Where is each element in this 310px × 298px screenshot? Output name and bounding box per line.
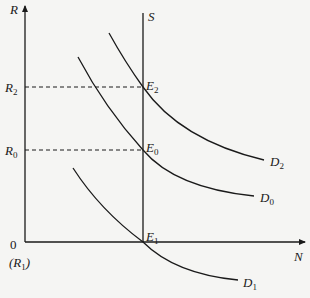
r2-label: R2 — [5, 81, 17, 97]
e1-sub: 1 — [154, 236, 159, 246]
d2-sub: 2 — [279, 161, 284, 171]
e2-text: E — [146, 78, 154, 93]
diagram-canvas: R N 0 (R1) R2 R0 S E2 E0 E1 D2 D0 D1 — [0, 0, 310, 298]
d0-text: D — [260, 190, 269, 205]
d2-label: D2 — [270, 155, 284, 171]
e1-label: E1 — [146, 230, 158, 246]
e1-text: E — [146, 229, 154, 244]
d0-label: D0 — [260, 191, 274, 207]
demand-curve-d0 — [78, 57, 254, 196]
d1-label: D1 — [243, 276, 257, 292]
origin-r1-close: ) — [26, 255, 30, 270]
e2-label: E2 — [146, 79, 158, 95]
d1-sub: 1 — [252, 282, 257, 292]
demand-curve-d1 — [73, 168, 238, 280]
supply-label: S — [148, 10, 155, 23]
r2-sub: 2 — [13, 87, 18, 97]
r0-text: R — [5, 143, 13, 158]
origin-label: 0 — [10, 238, 17, 251]
e0-sub: 0 — [154, 147, 159, 157]
demand-curve-d2 — [109, 33, 264, 160]
e0-text: E — [146, 140, 154, 155]
origin-r1-text: (R — [9, 255, 21, 270]
d1-text: D — [243, 275, 252, 290]
x-axis-label: N — [294, 250, 303, 263]
e2-sub: 2 — [154, 85, 159, 95]
origin-r1-label: (R1) — [9, 256, 30, 272]
y-axis-label: R — [10, 3, 18, 16]
r2-text: R — [5, 80, 13, 95]
d2-text: D — [270, 154, 279, 169]
d0-sub: 0 — [269, 197, 274, 207]
r0-sub: 0 — [13, 150, 18, 160]
e0-label: E0 — [146, 141, 158, 157]
r0-label: R0 — [5, 144, 17, 160]
